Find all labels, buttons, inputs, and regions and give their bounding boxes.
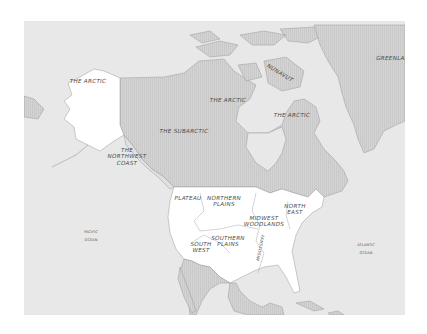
map-canvas	[24, 21, 405, 315]
region-label-the-subarctic: THE SUBARCTIC	[160, 128, 209, 134]
region-label-south-west: SOUTH WEST	[190, 241, 211, 254]
region-label-midwest-woodlands: MIDWEST WOODLANDS	[244, 215, 284, 228]
region-label-the-arctic-alaska: THE ARCTIC	[70, 78, 107, 84]
map-frame: THE ARCTIC THE ARCTIC THE ARCTIC THE SUB…	[24, 21, 405, 315]
region-label-the-northwest-coast: THE NORTHWEST COAST	[108, 147, 147, 166]
region-label-the-arctic-central: THE ARCTIC	[210, 97, 247, 103]
region-label-northern-plains: NORTHERN PLAINS	[207, 195, 241, 208]
region-label-greenland: GREENLAND	[376, 55, 405, 61]
region-label-southern-plains: SOUTHERN PLAINS	[211, 235, 245, 248]
ocean-label-pacific: PACIFIC OCEAN	[84, 228, 98, 244]
region-label-north-east: NORTH EAST	[284, 203, 306, 216]
ocean-label-atlantic: ATLANTIC OCEAN	[357, 241, 374, 257]
region-label-plateau: PLATEAU	[175, 195, 202, 201]
region-label-the-arctic-east: THE ARCTIC	[274, 112, 311, 118]
